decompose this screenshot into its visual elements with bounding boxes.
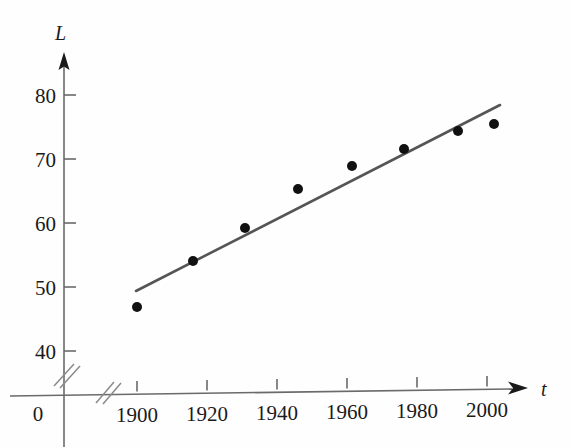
x-axis-ticks (137, 376, 487, 392)
data-point (399, 144, 409, 154)
x-tick-label-1980: 1980 (396, 399, 438, 423)
y-axis-label: L (54, 22, 66, 44)
x-axis-line (10, 389, 512, 396)
data-point (453, 126, 463, 136)
data-point (132, 302, 142, 312)
x-tick-label-2000: 2000 (466, 398, 508, 422)
y-tick-label-80: 80 (35, 84, 56, 108)
data-point (188, 256, 198, 266)
data-point (240, 223, 250, 233)
x-tick-label-1940: 1940 (256, 401, 298, 425)
y-tick-label-40: 40 (35, 340, 56, 364)
y-tick-label-50: 50 (35, 276, 56, 300)
y-axis-break-icon (54, 364, 80, 388)
data-point (293, 184, 303, 194)
x-tick-label-1960: 1960 (326, 400, 368, 424)
x-axis-label: t (541, 378, 547, 400)
x-tick-label-1920: 1920 (186, 402, 228, 426)
data-point (489, 119, 499, 129)
scatter-plot-svg: 80 70 60 50 40 L 1900 1920 1940 19 (0, 0, 572, 447)
chart-canvas: 80 70 60 50 40 L 1900 1920 1940 19 (0, 0, 572, 447)
origin-label: 0 (33, 402, 44, 426)
x-axis-arrowhead (508, 382, 528, 395)
y-tick-label-70: 70 (35, 148, 56, 172)
y-tick-label-60: 60 (35, 212, 56, 236)
y-axis-ticks (64, 95, 76, 351)
data-point (347, 161, 357, 171)
x-axis-break-icon (96, 382, 121, 404)
x-tick-label-1900: 1900 (116, 403, 158, 427)
data-points (132, 119, 499, 312)
x-axis (10, 382, 528, 397)
